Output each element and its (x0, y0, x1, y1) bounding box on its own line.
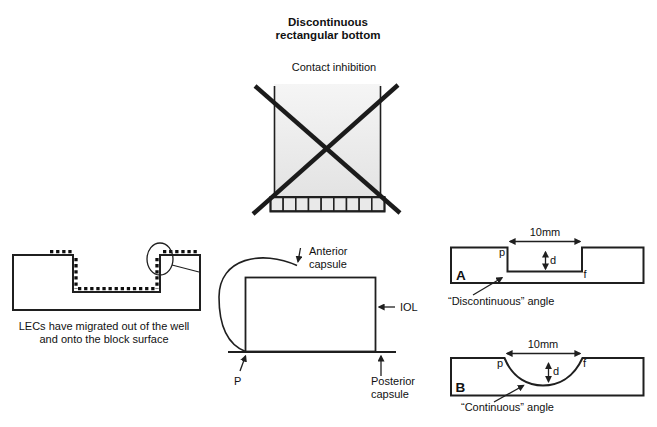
panel-letter-b: B (456, 380, 466, 395)
width-label-b: 10mm (528, 338, 559, 350)
crossed-box-diagram (253, 84, 400, 214)
membrane-cell (334, 198, 347, 212)
width-label-a: 10mm (530, 226, 561, 238)
block-b-outline (451, 358, 644, 396)
membrane-cell (347, 198, 360, 212)
angle-label-b: “Continuous” angle (461, 401, 554, 413)
membrane-cell (296, 198, 309, 212)
title-line1: Discontinuous (288, 16, 368, 28)
anterior-capsule-curve (219, 258, 297, 352)
angle-arrow-b (494, 386, 524, 403)
f-label-a: f (584, 268, 588, 280)
title-line2: rectangular bottom (276, 29, 381, 41)
anterior-capsule-label-line1: Anterior (309, 245, 348, 257)
depth-label-a: d (550, 254, 556, 266)
block-a-outline (451, 248, 644, 284)
anterior-capsule-label-line2: capsule (309, 258, 347, 270)
membrane-cell (309, 198, 322, 212)
subtitle-contact-inhibition: Contact inhibition (292, 61, 376, 73)
iol-capsule-diagram: Anterior capsule IOL Posterior capsule P (219, 245, 418, 400)
left-caption-line2: and onto the block surface (39, 333, 168, 345)
depth-label-b: d (553, 365, 559, 377)
iol-label: IOL (400, 301, 418, 313)
angle-arrow-a (473, 278, 502, 295)
left-caption-line1: LECs have migrated out of the well (19, 320, 190, 332)
membrane-cell (359, 198, 372, 212)
p-label-b: p (497, 357, 503, 369)
p-arrow (240, 356, 246, 371)
anterior-capsule-arrow (298, 248, 301, 262)
p-label: P (234, 375, 241, 387)
p-label-a: p (499, 246, 505, 258)
iol-rect (246, 278, 376, 352)
figure-canvas: Discontinuous rectangular bottom Contact… (0, 0, 657, 427)
posterior-capsule-label-line1: Posterior (371, 375, 415, 387)
left-block-diagram: LECs have migrated out of the well and o… (13, 243, 200, 345)
figure-svg: Discontinuous rectangular bottom Contact… (0, 0, 657, 427)
well-profile-a: 10mm p d f A “Discontinuous” angle (448, 226, 644, 307)
posterior-capsule-label-line2: capsule (371, 388, 409, 400)
membrane-cells (271, 198, 385, 212)
membrane-cell (321, 198, 334, 212)
figure-title: Discontinuous rectangular bottom Contact… (276, 16, 381, 73)
well-profile-b: 10mm p d f B “Continuous” angle (451, 338, 644, 413)
ellipse-leader-line (172, 265, 199, 272)
panel-letter-a: A (456, 268, 466, 283)
angle-label-a: “Discontinuous” angle (448, 295, 554, 307)
membrane-cell (283, 198, 296, 212)
